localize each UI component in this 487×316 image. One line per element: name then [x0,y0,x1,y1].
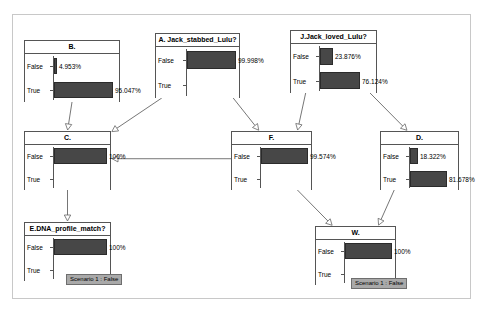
state-label: True [234,175,247,182]
probability-value: 100% [109,244,126,251]
edge-f-to-w [297,190,332,225]
edge-j-to-d [370,93,407,130]
node-title: F. [232,132,311,145]
scenario-badge[interactable]: Scenario 1 : False [66,274,122,285]
node-plot: False99.998%True [156,47,239,98]
probability-bar [410,171,447,187]
state-label: False [293,53,309,60]
node-f[interactable]: F.False99.574%True [231,131,312,190]
edge-arrowhead [252,124,258,131]
state-label: False [383,153,399,160]
axis-tick [341,251,344,252]
edge-arrowhead [378,218,384,225]
axis-tick [50,156,53,157]
state-label: True [27,175,40,182]
probability-bar [320,72,360,89]
axis-tick [50,179,53,180]
state-label: False [158,56,174,63]
node-title: B. [25,41,119,54]
state-label: False [234,153,250,160]
probability-value: 18.322% [420,153,446,160]
edge-d-to-w [378,190,394,225]
node-title: W. [316,227,395,240]
plot-row: True [25,168,110,191]
axis-tick [406,179,409,180]
edge-arrowhead [296,123,302,130]
edge-line [233,98,255,126]
network-diagram-canvas: B.False4.953%True95.047%A. Jack_stabbed_… [0,0,487,316]
probability-value: 23.876% [335,53,361,60]
state-label: True [158,82,171,89]
probability-bar [54,82,113,99]
node-w[interactable]: W.False100%True [315,226,396,285]
edge-arrowhead [65,124,71,130]
edge-a-to-f [233,98,259,130]
probability-value: 4.953% [59,63,81,70]
axis-tick [50,247,53,248]
plot-row: True76.124% [291,69,376,94]
axis-tick [183,85,186,86]
edge-line [117,98,162,128]
node-title: D. [381,132,458,145]
node-d[interactable]: D.False18.322%True81.678% [380,131,459,190]
probability-bar [54,58,57,75]
node-b[interactable]: B.False4.953%True95.047% [24,40,120,102]
axis-tick [50,66,53,67]
probability-value: 100% [394,248,411,255]
probability-value: 99.998% [238,56,264,63]
probability-bar [54,148,107,164]
probability-bar [54,239,107,255]
edge-a-to-c [112,98,162,132]
axis-tick [257,156,260,157]
edge-line [370,93,403,126]
probability-value: 81.678% [449,175,475,182]
state-label: False [27,153,43,160]
state-label: True [318,270,331,277]
plot-row: True95.047% [25,78,119,102]
state-label: False [318,248,334,255]
edge-c-to-e [64,190,70,221]
node-plot: False23.876%True76.124% [291,44,376,93]
plot-row: False100% [25,236,110,259]
state-label: True [27,87,40,94]
probability-bar [410,148,418,164]
probability-bar [187,51,236,69]
plot-row: False99.998% [156,47,239,73]
node-title: E.DNA_profile_match? [25,223,110,236]
axis-tick [257,179,260,180]
axis-tick [341,274,344,275]
plot-row: False18.322% [381,145,458,168]
plot-row: False23.876% [291,44,376,69]
node-plot: False4.953%True95.047% [25,54,119,102]
axis-tick [50,90,53,91]
node-a[interactable]: A. Jack_stabbed_Lulu?False99.998%True [155,33,240,98]
node-plot: False100%True [25,145,110,190]
scenario-badge[interactable]: Scenario 1 : False [351,278,407,289]
probability-bar [320,48,333,65]
plot-row: False99.574% [232,145,311,168]
probability-bar [261,148,308,164]
edge-line [69,102,72,124]
plot-row: False100% [25,145,110,168]
axis-tick [50,270,53,271]
edge-line [299,93,306,124]
axis-tick [316,81,319,82]
probability-bar [345,243,392,259]
node-c[interactable]: C.False100%True [24,131,111,190]
node-title: C. [25,132,110,145]
edge-line [381,190,394,220]
plot-row: True [156,73,239,99]
probability-value: 99.574% [310,153,336,160]
probability-value: 76.124% [362,77,388,84]
node-e[interactable]: E.DNA_profile_match?False100%True [24,222,111,281]
probability-value: 100% [109,153,126,160]
axis-tick [183,60,186,61]
plot-row: True81.678% [381,168,458,191]
probability-value: 95.047% [115,87,141,94]
edge-j-to-f [296,93,306,130]
node-j[interactable]: J.Jack_loved_Lulu?False23.876%True76.124… [290,30,377,93]
plot-row: False100% [316,240,395,263]
edge-f-to-c [112,156,231,162]
node-title: J.Jack_loved_Lulu? [291,31,376,44]
axis-tick [316,56,319,57]
